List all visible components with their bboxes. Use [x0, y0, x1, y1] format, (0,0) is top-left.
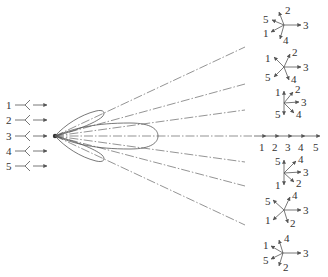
beam-diagram: 1 2 3 4 5	[0, 0, 328, 277]
svg-text:4: 4	[298, 153, 304, 165]
svg-text:5: 5	[275, 108, 281, 120]
svg-text:5: 5	[263, 13, 269, 25]
input-element-5: 5	[6, 160, 47, 172]
svg-text:3: 3	[303, 166, 309, 178]
axis-label-3: 3	[285, 141, 291, 153]
svg-text:4: 4	[292, 189, 298, 201]
svg-text:5: 5	[265, 71, 271, 83]
axis-label-2: 2	[272, 141, 278, 153]
svg-text:1: 1	[265, 52, 271, 64]
input-element-3: 3	[6, 130, 47, 142]
svg-text:4: 4	[296, 108, 302, 120]
input-label-3: 3	[6, 130, 12, 142]
input-label-5: 5	[6, 160, 12, 172]
input-label-2: 2	[6, 114, 12, 126]
axis-label-1: 1	[259, 141, 265, 153]
svg-text:3: 3	[303, 19, 309, 31]
svg-text:2: 2	[295, 83, 301, 95]
axis-label-4: 4	[298, 141, 304, 153]
svg-text:1: 1	[263, 27, 269, 39]
svg-text:4: 4	[283, 34, 289, 46]
input-element-4: 4	[6, 145, 47, 157]
svg-text:2: 2	[290, 217, 296, 229]
output-axis: 1 2 3 4 5	[254, 136, 320, 153]
svg-text:4: 4	[284, 232, 290, 244]
svg-text:1: 1	[275, 179, 281, 191]
svg-text:1: 1	[275, 86, 281, 98]
svg-text:1: 1	[265, 214, 271, 226]
svg-text:3: 3	[303, 61, 309, 73]
svg-text:5: 5	[275, 155, 281, 167]
svg-text:2: 2	[283, 261, 289, 273]
svg-text:3: 3	[303, 247, 309, 259]
svg-text:2: 2	[292, 46, 298, 58]
phasor-bottom-1: 5 4 3 1 2	[275, 153, 309, 191]
svg-text:3: 3	[301, 96, 307, 108]
svg-text:2: 2	[285, 4, 291, 16]
input-label-1: 1	[6, 99, 12, 111]
svg-text:2: 2	[296, 177, 302, 189]
phasor-bottom-2: 5 4 3 1 2	[265, 189, 309, 229]
input-element-2: 2	[6, 114, 47, 126]
svg-text:3: 3	[303, 204, 309, 216]
phasor-bottom-3: 1 4 3 5 2	[263, 232, 309, 273]
upper-side-lobe	[55, 110, 104, 136]
phasor-top-1: 5 2 3 1 4	[263, 4, 309, 46]
axis-label-5: 5	[313, 141, 319, 153]
input-element-1: 1	[6, 99, 47, 111]
input-label-4: 4	[6, 145, 12, 157]
phasor-top-2: 1 2 3 5 4	[265, 46, 309, 85]
svg-text:5: 5	[265, 195, 271, 207]
phasor-top-3: 1 2 3 5 4	[275, 83, 307, 120]
lower-side-lobe	[55, 136, 104, 162]
input-array: 1 2 3 4 5	[6, 99, 47, 172]
svg-text:1: 1	[263, 239, 269, 251]
beam-rays	[55, 47, 252, 225]
svg-text:5: 5	[263, 254, 269, 266]
